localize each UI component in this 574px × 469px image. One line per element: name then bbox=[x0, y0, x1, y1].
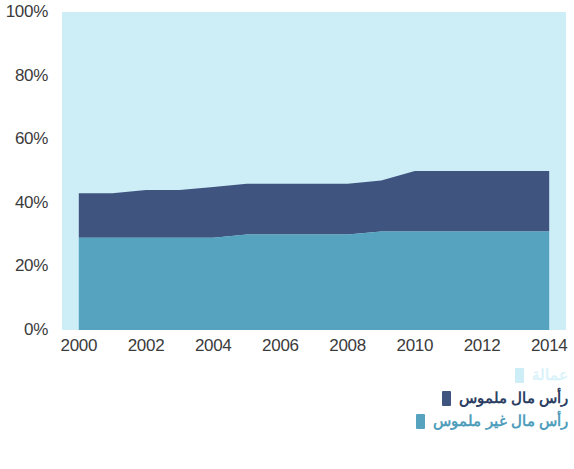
y-axis-tick-label: 80% bbox=[15, 66, 48, 86]
legend-item-label: رأس مال غير ملموس bbox=[433, 412, 568, 430]
x-axis-tick-label: 2014 bbox=[531, 336, 568, 356]
legend-swatch-icon bbox=[515, 368, 524, 383]
chart-root: 0%20%40%60%80%100% 200020022004200620082… bbox=[0, 0, 574, 469]
x-axis-tick-label: 2002 bbox=[128, 336, 165, 356]
x-axis-tick-label: 2004 bbox=[195, 336, 232, 356]
y-axis-tick-label: 20% bbox=[15, 256, 48, 276]
legend-item[interactable]: رأس مال غير ملموس bbox=[416, 412, 568, 430]
x-axis-tick-label: 2006 bbox=[262, 336, 299, 356]
x-axis-tick-label: 2012 bbox=[464, 336, 501, 356]
area-series-intangible-capital bbox=[79, 231, 549, 330]
plot-area bbox=[62, 12, 566, 330]
chart-legend: عمالةرأس مال ملموسرأس مال غير ملموس bbox=[228, 366, 568, 430]
x-axis-tick-label: 2008 bbox=[329, 336, 366, 356]
legend-item-label: عمالة bbox=[532, 366, 568, 384]
legend-item[interactable]: عمالة bbox=[515, 366, 568, 384]
legend-swatch-icon bbox=[442, 391, 451, 406]
legend-item-label: رأس مال ملموس bbox=[459, 389, 568, 407]
y-axis-tick-label: 40% bbox=[15, 193, 48, 213]
y-axis-tick-label: 60% bbox=[15, 129, 48, 149]
y-axis-tick-label: 100% bbox=[6, 2, 48, 22]
y-axis: 0%20%40%60%80%100% bbox=[0, 0, 56, 345]
y-axis-tick-label: 0% bbox=[24, 320, 48, 340]
legend-swatch-icon bbox=[416, 414, 425, 429]
stacked-area-svg bbox=[62, 12, 566, 330]
x-axis: 20002002200420062008201020122014 bbox=[62, 336, 566, 364]
x-axis-tick-label: 2000 bbox=[60, 336, 97, 356]
x-axis-tick-label: 2010 bbox=[396, 336, 433, 356]
legend-item[interactable]: رأس مال ملموس bbox=[442, 389, 568, 407]
